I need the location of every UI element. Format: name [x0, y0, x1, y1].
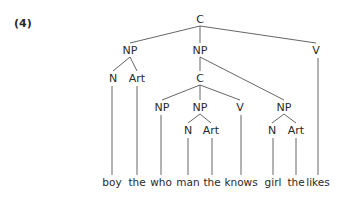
node-c: C: [196, 72, 204, 85]
tree-branch-line: [130, 26, 200, 43]
terminal-word: likes: [306, 176, 329, 188]
node-np: NP: [193, 101, 208, 114]
node-c: C: [196, 13, 204, 26]
node-art: Art: [203, 124, 220, 137]
node-n: N: [268, 124, 276, 137]
terminal-word: man: [176, 176, 199, 188]
node-n: N: [184, 124, 192, 137]
tree-branch-line: [200, 114, 211, 123]
node-art: Art: [129, 72, 146, 85]
tree-branch-line: [162, 85, 200, 100]
terminal-word: who: [150, 176, 172, 188]
tree-nodes: CNPNPVNArtCNPNPVNPNArtNArt: [109, 13, 320, 137]
node-v: V: [312, 44, 320, 57]
tree-branch-line: [272, 114, 284, 123]
terminal-word: the: [203, 176, 220, 188]
tree-branch-line: [188, 114, 200, 123]
node-np: NP: [277, 101, 292, 114]
node-n: N: [109, 72, 117, 85]
tree-branch-line: [113, 57, 130, 71]
terminal-word: girl: [265, 176, 282, 188]
terminal-word: knows: [224, 176, 257, 188]
node-art: Art: [288, 124, 305, 137]
node-v: V: [236, 101, 244, 114]
example-number-label: (4): [14, 17, 32, 30]
node-np: NP: [123, 44, 138, 57]
tree-branch-line: [130, 57, 137, 71]
tree-branch-line: [200, 57, 284, 100]
terminal-word: boy: [102, 176, 121, 188]
node-np: NP: [155, 101, 170, 114]
terminal-word: the: [128, 176, 145, 188]
terminal-words: boythewhomantheknowsgirlthelikes: [102, 176, 329, 188]
syntax-tree-diagram: (4) CNPNPVNArtCNPNPVNPNArtNArt boythewho…: [0, 0, 343, 197]
tree-branch-line: [284, 114, 296, 123]
terminal-word: the: [287, 176, 304, 188]
tree-branch-line: [200, 85, 240, 100]
tree-branch-line: [200, 26, 316, 43]
node-np: NP: [193, 44, 208, 57]
